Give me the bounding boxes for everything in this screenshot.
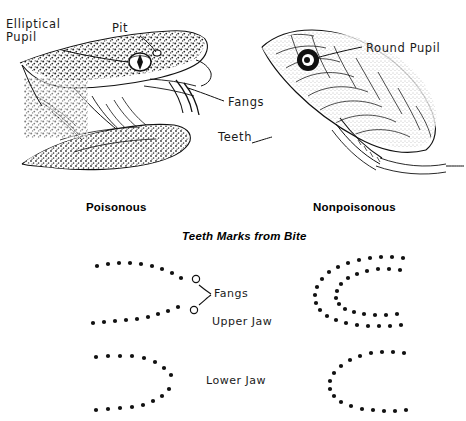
tooth-mark-dot: [344, 321, 348, 325]
tooth-mark-dot: [95, 264, 99, 268]
tooth-mark-dot: [139, 262, 143, 266]
tooth-mark-dot: [334, 296, 338, 300]
tooth-mark-dot: [169, 373, 173, 377]
nonpoisonous-lower-jaw-arc: [328, 350, 408, 413]
tooth-mark-dot: [106, 354, 110, 358]
tooth-mark-dot: [339, 282, 343, 286]
tooth-mark-dot: [352, 310, 356, 314]
tooth-mark-dot: [166, 309, 170, 313]
poisonous-upper-jaw-fang-bottom: [190, 306, 197, 313]
tooth-mark-dot: [368, 256, 372, 260]
tooth-mark-dot: [390, 255, 394, 259]
tooth-mark-dot: [362, 312, 366, 316]
fangs-leader-bracket: [199, 285, 211, 305]
tooth-mark-dot: [376, 267, 380, 271]
tooth-mark-dot: [358, 354, 362, 358]
tooth-mark-dot: [377, 324, 381, 328]
tooth-mark-dot: [150, 264, 154, 268]
tooth-mark-dot: [339, 364, 343, 368]
poisonous-lower-jaw-bottom-row: [94, 387, 171, 412]
tooth-mark-dot: [348, 358, 352, 362]
upper-jaw-label: Upper Jaw: [212, 315, 272, 328]
tooth-mark-dot: [153, 360, 157, 364]
tooth-mark-dot: [360, 407, 364, 411]
tooth-mark-dot: [357, 258, 361, 262]
tooth-mark-dot: [141, 403, 145, 407]
bite-mark-diagram: [0, 0, 466, 421]
tooth-mark-dot: [142, 356, 146, 360]
tooth-mark-dot: [398, 268, 402, 272]
tooth-mark-dot: [387, 267, 391, 271]
tooth-mark-dot: [391, 350, 395, 354]
tooth-mark-dot: [118, 406, 122, 410]
tooth-mark-dot: [318, 308, 322, 312]
tooth-mark-dot: [162, 366, 166, 370]
tooth-mark-dot: [379, 255, 383, 259]
tooth-mark-dot: [388, 324, 392, 328]
tooth-mark-dot: [349, 404, 353, 408]
tooth-mark-dot: [373, 313, 377, 317]
tooth-mark-dot: [128, 261, 132, 265]
nonpoisonous-upper-jaw-outer-arc: [313, 255, 405, 328]
nonpoisonous-upper-jaw-inner-arc: [334, 267, 402, 317]
poisonous-lower-jaw-top-row: [94, 354, 173, 377]
tooth-mark-dot: [146, 315, 150, 319]
tooth-mark-dot: [135, 317, 139, 321]
tooth-mark-dot: [327, 270, 331, 274]
tooth-mark-dot: [337, 302, 341, 306]
tooth-mark-dot: [106, 407, 110, 411]
tooth-mark-dot: [382, 409, 386, 413]
tooth-mark-dot: [355, 272, 359, 276]
tooth-mark-dot: [91, 321, 95, 325]
tooth-mark-dot: [106, 262, 110, 266]
tooth-mark-dot: [343, 307, 347, 311]
tooth-mark-dot: [117, 261, 121, 265]
tooth-mark-dot: [130, 405, 134, 409]
tooth-mark-dot: [369, 351, 373, 355]
tooth-mark-dot: [315, 285, 319, 289]
tooth-mark-dot: [366, 324, 370, 328]
tooth-mark-dot: [160, 267, 164, 271]
tooth-mark-dot: [94, 408, 98, 412]
tooth-mark-dot: [314, 301, 318, 305]
tooth-mark-dot: [371, 408, 375, 412]
tooth-mark-dot: [334, 318, 338, 322]
lower-jaw-label: Lower Jaw: [206, 374, 266, 387]
tooth-mark-dot: [355, 323, 359, 327]
fang-puncture-mark: [192, 275, 199, 282]
tooth-mark-dot: [399, 323, 403, 327]
tooth-mark-dot: [328, 379, 332, 383]
tooth-mark-dot: [179, 276, 183, 280]
tooth-mark-dot: [102, 320, 106, 324]
tooth-mark-dot: [151, 399, 155, 403]
tooth-mark-dot: [332, 394, 336, 398]
tooth-mark-dot: [401, 256, 405, 260]
tooth-mark-dot: [328, 387, 332, 391]
tooth-mark-dot: [94, 355, 98, 359]
tooth-mark-dot: [402, 351, 406, 355]
tooth-mark-dot: [395, 312, 399, 316]
figure-canvas: Elliptical Pupil Pit: [0, 0, 466, 421]
tooth-mark-dot: [380, 350, 384, 354]
tooth-mark-dot: [335, 289, 339, 293]
poisonous-upper-jaw-fang-top: [192, 275, 199, 282]
tooth-mark-dot: [118, 354, 122, 358]
tooth-mark-dot: [384, 313, 388, 317]
tooth-mark-dot: [170, 271, 174, 275]
tooth-mark-dot: [130, 354, 134, 358]
tooth-mark-dot: [339, 400, 343, 404]
tooth-mark-dot: [393, 409, 397, 413]
tooth-mark-dot: [176, 305, 180, 309]
tooth-mark-dot: [320, 277, 324, 281]
tooth-mark-dot: [113, 319, 117, 323]
fang-puncture-mark: [190, 306, 197, 313]
tooth-mark-dot: [313, 293, 317, 297]
tooth-mark-dot: [346, 261, 350, 265]
tooth-mark-dot: [160, 394, 164, 398]
tooth-mark-dot: [167, 387, 171, 391]
tooth-mark-dot: [156, 312, 160, 316]
tooth-mark-dot: [325, 314, 329, 318]
tooth-mark-dot: [124, 318, 128, 322]
fangs-label-bite: Fangs: [214, 287, 248, 300]
tooth-mark-dot: [346, 276, 350, 280]
